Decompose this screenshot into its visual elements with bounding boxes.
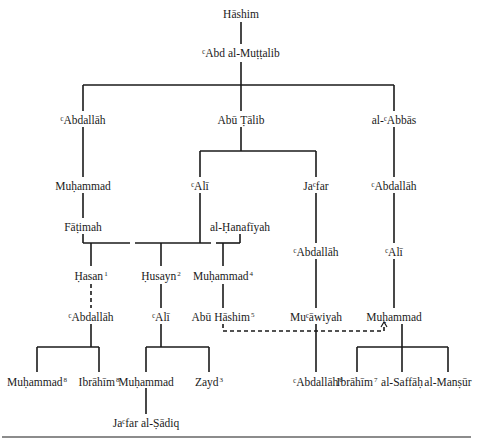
person-node-abbas: al-ᶜAbbās: [372, 114, 416, 127]
person-name: ᶜAbdallāh: [293, 246, 338, 258]
person-name: Muḥammad: [366, 311, 422, 323]
footnote-marker: 5: [251, 311, 255, 319]
person-node-jafar-sadiq: Jaᶜfar al-Ṣādiq: [113, 417, 179, 430]
person-name: al-Manṣūr: [424, 376, 471, 388]
person-node-jafar: Jaᶜfar: [303, 180, 328, 193]
person-node-abdallah-abbas: ᶜAbdallāh: [371, 180, 416, 193]
person-node-muhammad-nafs: Muḥammad8: [7, 376, 67, 389]
person-node-ali-abbas: ᶜAlī: [385, 246, 403, 259]
person-node-abu-hashim: Abū Hāshim5: [192, 311, 255, 324]
person-node-ibrahim-abbas: Ibrāhīm7: [337, 376, 378, 389]
person-node-muhammad-abbas: Muḥammad: [366, 311, 422, 324]
person-node-abdallah1: ᶜAbdallāh: [60, 114, 105, 127]
person-name: Abū Hāshim: [192, 311, 250, 323]
person-name: Hāshim: [223, 8, 259, 20]
person-name: ᶜAlī: [152, 311, 170, 323]
person-name: Muḥammad: [193, 270, 249, 282]
person-name: Abū Ṭālib: [218, 114, 265, 126]
person-name: Ḥusayn: [141, 270, 176, 282]
footnote-marker: 7: [374, 376, 378, 384]
person-name: Muḥammad: [55, 180, 111, 192]
person-node-hasan: Ḥasan1: [74, 270, 107, 283]
person-node-muhammad-hanafiyah: Muḥammad4: [193, 270, 253, 283]
person-node-hashim: Hāshim: [223, 8, 259, 21]
person-node-abdallah-hasan: ᶜAbdallāh: [68, 311, 113, 324]
footnote-marker: 3: [220, 376, 224, 384]
person-node-saffah: al-Saffāḥ: [381, 376, 423, 389]
person-name: al-ᶜAbbās: [372, 114, 416, 126]
person-name: Fāṭimah: [64, 221, 102, 233]
person-name: Zayd: [195, 376, 219, 388]
person-name: ᶜAbdallāh: [293, 376, 338, 388]
person-node-abu-talib: Abū Ṭālib: [218, 114, 265, 127]
person-name: ᶜAlī: [385, 246, 403, 258]
person-name: Muḥammad: [7, 376, 63, 388]
person-name: ᶜAbdallāh: [371, 180, 416, 192]
person-node-abd-muttalib: ᶜAbd al-Muṭṭalib: [202, 47, 279, 60]
person-node-fatimah: Fāṭimah: [64, 221, 102, 234]
person-name: Ibrāhīm: [79, 376, 115, 388]
person-name: Jaᶜfar: [303, 180, 328, 192]
person-node-hanafiyah: al-Ḥanafīyah: [210, 221, 270, 234]
person-node-zayd: Zayd3: [195, 376, 223, 389]
person-name: Muḥammad: [118, 376, 174, 388]
person-node-muawiyah: Muᶜāwiyah: [290, 311, 342, 324]
person-name: ᶜAbdallāh: [60, 114, 105, 126]
person-name: Muᶜāwiyah: [290, 311, 342, 323]
person-name: al-Saffāḥ: [381, 376, 423, 388]
person-name: ᶜAbd al-Muṭṭalib: [202, 47, 279, 59]
footnote-marker: 4: [250, 270, 254, 278]
person-node-muhammad-prophet: Muḥammad: [55, 180, 111, 193]
person-node-muhammad-baqir: Muḥammad: [118, 376, 174, 389]
person-name: ᶜAbdallāh: [68, 311, 113, 323]
person-name: Ibrāhīm: [337, 376, 373, 388]
person-node-ali: ᶜAlī: [191, 180, 209, 193]
person-name: al-Ḥanafīyah: [210, 221, 270, 233]
footnote-marker: 2: [177, 270, 181, 278]
person-node-husayn: Ḥusayn2: [141, 270, 181, 283]
person-node-ibrahim-hasan: Ibrāhīm8: [79, 376, 120, 389]
person-node-abdallah-jafar: ᶜAbdallāh: [293, 246, 338, 259]
person-name: ᶜAlī: [191, 180, 209, 192]
person-node-abdallah-muawiyah: ᶜAbdallāh6: [293, 376, 343, 389]
person-name: Ḥasan: [74, 270, 103, 282]
footnote-marker: 1: [104, 270, 108, 278]
person-name: Jaᶜfar al-Ṣādiq: [113, 417, 179, 429]
footnote-marker: 8: [64, 376, 68, 384]
person-node-ali-husayn: ᶜAlī: [152, 311, 170, 324]
person-node-mansur: al-Manṣūr: [424, 376, 471, 389]
